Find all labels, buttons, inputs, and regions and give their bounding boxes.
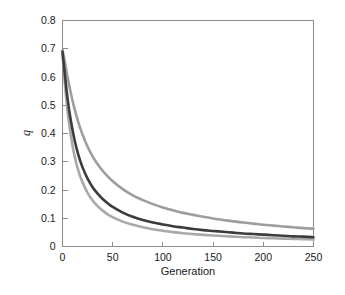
x-axis-title: Generation [161, 265, 215, 277]
chart-figure: 00.10.20.30.40.50.60.70.8 05010015020025… [0, 0, 345, 295]
line-chart: 00.10.20.30.40.50.60.70.8 05010015020025… [0, 0, 345, 295]
y-tick-label: 0.5 [41, 99, 56, 111]
y-tick-label: 0.8 [41, 14, 56, 26]
y-tick-label: 0.6 [41, 71, 56, 83]
y-tick-label: 0 [50, 240, 56, 252]
x-tick-label: 50 [107, 251, 119, 263]
y-tick-label: 0.4 [41, 127, 56, 139]
x-tick-label: 250 [305, 251, 323, 263]
x-tick-label: 100 [154, 251, 172, 263]
x-tick-label: 200 [255, 251, 273, 263]
y-tick-label: 0.1 [41, 212, 56, 224]
y-tick-label: 0.3 [41, 155, 56, 167]
y-axis-tick-labels: 00.10.20.30.40.50.60.70.8 [41, 14, 56, 252]
y-axis-title: q [19, 130, 33, 136]
y-tick-label: 0.7 [41, 42, 56, 54]
x-tick-label: 0 [60, 251, 66, 263]
y-tick-label: 0.2 [41, 184, 56, 196]
x-tick-label: 150 [204, 251, 222, 263]
